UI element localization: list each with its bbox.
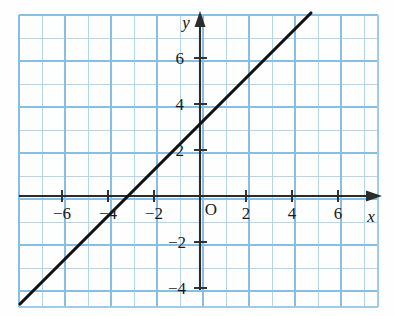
x-tick-label-4: 4: [288, 204, 297, 223]
graph-figure: −6 −4 −2 2 4 6 6 4 2 −2 −4 O x y: [0, 0, 394, 316]
x-tick-label-neg4: −4: [99, 204, 118, 223]
y-tick-label-2: 2: [176, 141, 185, 160]
x-tick-label-2: 2: [242, 204, 251, 223]
x-tick-label-neg6: −6: [53, 204, 71, 223]
y-tick-label-6: 6: [176, 49, 185, 68]
x-axis-label: x: [366, 207, 375, 226]
coordinate-plane-svg: −6 −4 −2 2 4 6 6 4 2 −2 −4 O x y: [0, 0, 394, 316]
y-tick-label-neg4: −4: [168, 279, 187, 298]
x-tick-label-neg2: −2: [145, 204, 163, 223]
x-tick-label-6: 6: [334, 204, 343, 223]
y-axis-label: y: [180, 13, 190, 32]
y-tick-label-4: 4: [176, 95, 185, 114]
y-tick-label-neg2: −2: [168, 233, 186, 252]
origin-label: O: [205, 200, 217, 219]
figure-background: [0, 0, 394, 316]
